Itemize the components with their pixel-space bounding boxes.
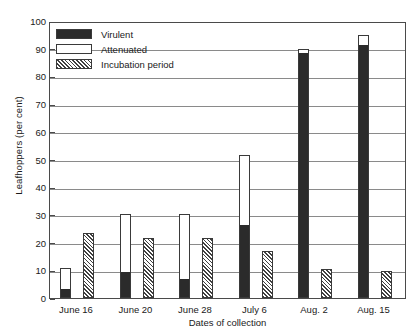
bar-attenuated bbox=[179, 214, 190, 298]
legend-label: Incubation period bbox=[101, 59, 174, 70]
chart-legend: Virulent Attenuated Incubation period bbox=[56, 27, 216, 72]
y-axis-tick-label: 90 bbox=[6, 45, 46, 55]
y-axis-tick-mark bbox=[50, 22, 55, 23]
y-axis-tick-label: 20 bbox=[6, 239, 46, 249]
bar-virulent bbox=[121, 272, 130, 297]
x-axis-title: Dates of collection bbox=[49, 317, 406, 328]
y-axis-tick-mark bbox=[50, 271, 55, 272]
bar-attenuated bbox=[60, 268, 71, 298]
bar-virulent bbox=[299, 53, 308, 297]
y-axis-tick-label: 10 bbox=[6, 266, 46, 276]
legend-item-incubation-period: Incubation period bbox=[56, 57, 216, 71]
legend-item-virulent: Virulent bbox=[56, 27, 216, 41]
y-axis-tick-label: 80 bbox=[6, 72, 46, 82]
bar-incubation-period bbox=[83, 233, 94, 298]
y-axis-tick-label: 50 bbox=[6, 156, 46, 166]
bar-group bbox=[288, 23, 348, 298]
y-axis-tick-mark bbox=[50, 49, 55, 50]
bar-chart-figure: Leafhoppers (per cent) Dates of collecti… bbox=[0, 0, 412, 333]
legend-label: Attenuated bbox=[101, 44, 147, 55]
bar-attenuated bbox=[298, 49, 309, 298]
y-axis-tick-mark bbox=[50, 105, 55, 106]
legend-label: Virulent bbox=[101, 29, 133, 40]
bar-incubation-period bbox=[143, 238, 154, 298]
y-axis-tick-mark bbox=[50, 160, 55, 161]
x-axis-tick-label: Aug. 15 bbox=[329, 304, 412, 315]
y-axis-tick-label: 0 bbox=[6, 294, 46, 304]
y-axis-tick-label: 40 bbox=[6, 183, 46, 193]
bar-incubation-period bbox=[321, 269, 332, 298]
bar-attenuated bbox=[239, 155, 250, 298]
y-axis-tick-mark bbox=[50, 188, 55, 189]
bar-attenuated bbox=[120, 214, 131, 298]
bar-virulent bbox=[240, 225, 249, 297]
y-axis-tick-label: 100 bbox=[6, 17, 46, 27]
bar-virulent bbox=[359, 45, 368, 297]
solid-black-swatch-icon bbox=[56, 29, 92, 39]
diagonal-hatch-swatch-icon bbox=[56, 59, 92, 69]
legend-item-attenuated: Attenuated bbox=[56, 42, 216, 56]
bar-incubation-period bbox=[202, 238, 213, 298]
y-axis-tick-mark bbox=[50, 243, 55, 244]
bar-attenuated bbox=[358, 35, 369, 298]
bar-virulent bbox=[180, 279, 189, 297]
y-axis-tick-mark bbox=[50, 77, 55, 78]
y-axis-title: Leafhoppers (per cent) bbox=[13, 36, 24, 256]
bar-incubation-period bbox=[381, 271, 392, 298]
y-axis-tick-label: 70 bbox=[6, 100, 46, 110]
bar-group bbox=[229, 23, 289, 298]
bar-incubation-period bbox=[262, 251, 273, 298]
bar-virulent bbox=[61, 289, 70, 297]
y-axis-tick-mark bbox=[50, 215, 55, 216]
y-axis-tick-mark bbox=[50, 299, 55, 300]
y-axis-tick-label: 30 bbox=[6, 211, 46, 221]
y-axis-tick-label: 60 bbox=[6, 128, 46, 138]
y-axis-tick-mark bbox=[50, 132, 55, 133]
bar-group bbox=[348, 23, 408, 298]
white-outline-swatch-icon bbox=[56, 44, 92, 54]
